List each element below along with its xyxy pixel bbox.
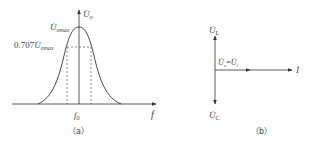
- figure-b-phasor-diagram: U̇L U̇C U̇o=U̇i İ （b）: [209, 25, 300, 136]
- resonance-curve: [38, 27, 121, 104]
- current-label: İ: [295, 65, 300, 75]
- capacitor-voltage-label: U̇C: [209, 110, 220, 121]
- diagram-canvas: U̇o U̇omax 0.707U̇omax f0 f （a） U̇L U̇C …: [0, 0, 313, 144]
- output-equals-input-label: U̇o=U̇i: [218, 58, 239, 68]
- half-power-label: 0.707U̇omax: [14, 40, 54, 51]
- x-axis-label: f: [151, 109, 155, 120]
- figure-a-resonance-curve: U̇o U̇omax 0.707U̇omax f0 f （a）: [12, 9, 156, 136]
- center-frequency-label: f0: [74, 110, 80, 121]
- y-axis-label: U̇o: [83, 9, 93, 20]
- inductor-voltage-label: U̇L: [209, 25, 220, 36]
- caption-a: （a）: [68, 127, 89, 136]
- caption-b: （b）: [251, 127, 272, 136]
- peak-label: U̇omax: [50, 22, 70, 33]
